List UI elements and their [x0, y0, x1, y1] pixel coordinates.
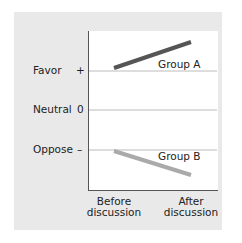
y-tick-oppose: –: [77, 143, 82, 155]
x-label-before-line2: discussion: [79, 207, 149, 218]
y-tick-favor: +: [76, 64, 85, 76]
x-label-after: After discussion: [156, 196, 226, 218]
x-label-after-line2: discussion: [156, 207, 226, 218]
y-label-favor: Favor: [33, 64, 61, 76]
y-tick-neutral: 0: [77, 103, 84, 115]
y-label-neutral: Neutral: [33, 103, 72, 115]
group-b-label: Group B: [158, 150, 201, 162]
group-a-label: Group A: [158, 58, 201, 70]
y-label-oppose: Oppose: [33, 143, 73, 155]
x-label-before: Before discussion: [79, 196, 149, 218]
